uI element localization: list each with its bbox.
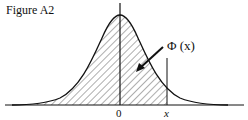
tick-label-x: x	[163, 107, 169, 119]
normal-distribution-chart: Φ (x) 0 x	[0, 0, 248, 120]
phi-annotation: Φ (x)	[167, 38, 195, 53]
tick-label-zero: 0	[116, 107, 122, 119]
